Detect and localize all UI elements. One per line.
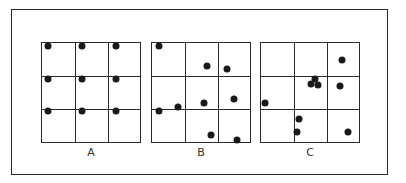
grid-line-vertical xyxy=(185,43,186,142)
grid-line-horizontal xyxy=(261,76,359,77)
data-point xyxy=(204,63,211,70)
data-point xyxy=(45,43,52,50)
data-point xyxy=(208,132,215,139)
data-point xyxy=(294,129,301,136)
grid-line-horizontal xyxy=(152,109,250,110)
grid-panel-a xyxy=(41,42,141,143)
data-point xyxy=(234,137,241,144)
data-point xyxy=(262,100,269,107)
data-point xyxy=(45,108,52,115)
data-point xyxy=(79,108,86,115)
data-point xyxy=(113,76,120,83)
panel-label-c: C xyxy=(260,146,360,159)
data-point xyxy=(296,116,303,123)
data-point xyxy=(224,66,231,73)
grid-panel-c xyxy=(260,42,360,143)
panel-label-a: A xyxy=(41,146,141,159)
grid-line-horizontal xyxy=(42,109,140,110)
grid-panel-b xyxy=(151,42,251,143)
data-point xyxy=(45,76,52,83)
data-point xyxy=(337,83,344,90)
data-point xyxy=(113,108,120,115)
data-point xyxy=(113,43,120,50)
data-point xyxy=(231,96,238,103)
grid-line-horizontal xyxy=(152,76,250,77)
data-point xyxy=(79,43,86,50)
data-point xyxy=(308,81,315,88)
data-point xyxy=(175,104,182,111)
grid-line-horizontal xyxy=(42,76,140,77)
grid-line-vertical xyxy=(108,43,109,142)
data-point xyxy=(339,57,346,64)
grid-line-vertical xyxy=(294,43,295,142)
data-point xyxy=(79,76,86,83)
panel-label-b: B xyxy=(151,146,251,159)
data-point xyxy=(315,82,322,89)
data-point xyxy=(156,108,163,115)
grid-line-vertical xyxy=(218,43,219,142)
data-point xyxy=(345,129,352,136)
data-point xyxy=(156,43,163,50)
grid-line-horizontal xyxy=(261,109,359,110)
grid-line-vertical xyxy=(75,43,76,142)
grid-line-vertical xyxy=(327,43,328,142)
data-point xyxy=(201,100,208,107)
